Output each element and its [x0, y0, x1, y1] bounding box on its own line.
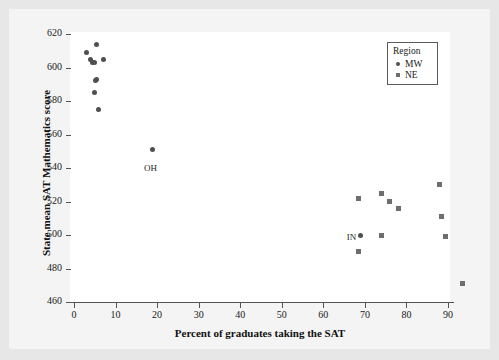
x-tick-mark — [199, 303, 200, 308]
y-axis-title: State mean SAT Mathematics score — [40, 38, 52, 308]
x-tick-label: 40 — [225, 309, 255, 320]
y-tick-mark — [66, 235, 71, 236]
y-tick-mark — [66, 302, 71, 303]
legend-marker-circle-icon — [393, 62, 403, 66]
y-tick-label: 620 — [28, 27, 62, 38]
legend-label-mw: MW — [405, 59, 422, 69]
data-point-ne[interactable] — [387, 199, 392, 204]
x-tick-mark — [157, 303, 158, 308]
legend-title: Region — [393, 46, 433, 56]
x-axis-line — [66, 302, 454, 303]
x-tick-mark — [406, 303, 407, 308]
legend-marker-square-icon — [393, 73, 403, 77]
y-tick-mark — [66, 135, 71, 136]
y-tick-mark — [66, 101, 71, 102]
x-tick-mark — [365, 303, 366, 308]
y-tick-mark — [66, 34, 71, 35]
x-tick-label: 20 — [142, 309, 172, 320]
y-tick-mark — [66, 269, 71, 270]
x-tick-mark — [74, 303, 75, 308]
x-tick-label: 50 — [267, 309, 297, 320]
data-point-ne[interactable] — [460, 281, 465, 286]
data-point-ne[interactable] — [379, 191, 384, 196]
x-tick-label: 30 — [184, 309, 214, 320]
data-point-ne[interactable] — [443, 234, 448, 239]
screenshot-page: 0102030405060708090460480500520540560580… — [0, 0, 499, 360]
legend-item-mw[interactable]: MW — [393, 58, 433, 69]
scatter-chart-figure: 0102030405060708090460480500520540560580… — [0, 0, 499, 360]
x-tick-label: 90 — [433, 309, 463, 320]
data-point-ne[interactable] — [356, 249, 361, 254]
x-tick-mark — [240, 303, 241, 308]
data-point-mw[interactable] — [101, 57, 106, 62]
data-point-mw[interactable] — [358, 233, 363, 238]
y-tick-mark — [66, 168, 71, 169]
data-point-ne[interactable] — [437, 182, 442, 187]
data-point-ne[interactable] — [356, 196, 361, 201]
x-tick-label: 10 — [101, 309, 131, 320]
x-tick-mark — [116, 303, 117, 308]
x-tick-label: 70 — [350, 309, 380, 320]
x-tick-label: 80 — [391, 309, 421, 320]
legend: Region MW NE — [387, 42, 438, 85]
data-point-ne[interactable] — [396, 206, 401, 211]
data-point-mw[interactable] — [94, 42, 99, 47]
x-tick-label: 60 — [308, 309, 338, 320]
data-point-ne[interactable] — [439, 214, 444, 219]
legend-item-ne[interactable]: NE — [393, 69, 433, 80]
x-tick-mark — [448, 303, 449, 308]
y-tick-mark — [66, 68, 71, 69]
y-tick-mark — [66, 202, 71, 203]
point-annotation-in: IN — [347, 232, 357, 242]
data-point-mw[interactable] — [84, 50, 89, 55]
legend-label-ne: NE — [405, 70, 418, 80]
x-tick-label: 0 — [59, 309, 89, 320]
data-point-ne[interactable] — [379, 233, 384, 238]
x-axis-title: Percent of graduates taking the SAT — [70, 327, 450, 339]
x-tick-mark — [323, 303, 324, 308]
x-tick-mark — [282, 303, 283, 308]
point-annotation-oh: OH — [144, 163, 157, 173]
